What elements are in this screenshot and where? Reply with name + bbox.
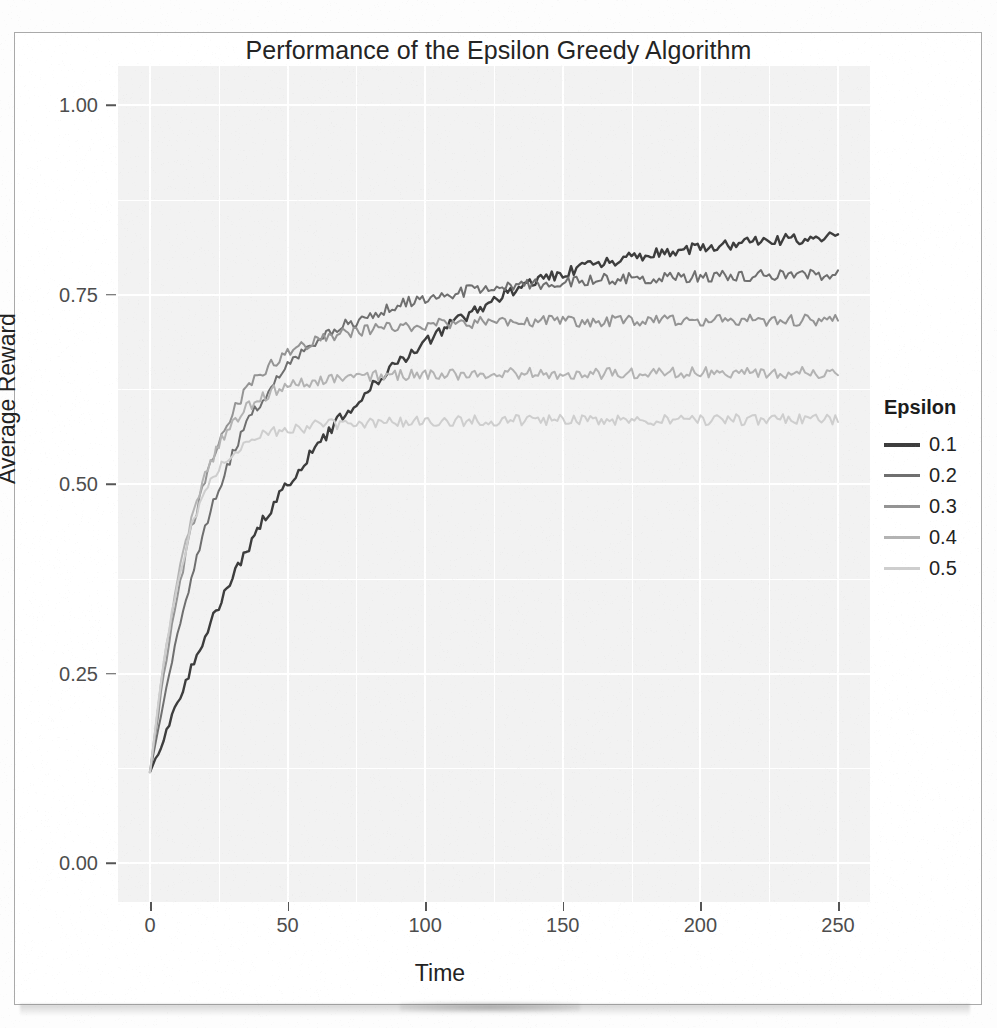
legend-item-0.4[interactable]: 0.4 [884,522,957,553]
series-lines [118,66,870,902]
x-tick-label: 50 [276,914,298,937]
legend-item-0.1[interactable]: 0.1 [884,429,957,460]
y-tick-label: 1.00 [42,94,98,117]
legend-item-label: 0.5 [929,557,957,580]
legend-item-0.2[interactable]: 0.2 [884,460,957,491]
x-axis: 050100150200250 [118,902,870,942]
y-tick-label: 0.50 [42,473,98,496]
x-tick-mark [150,902,152,911]
series-line-0.1 [150,232,838,772]
legend-item-label: 0.4 [929,526,957,549]
y-axis: 0.000.250.500.751.00 [40,66,118,902]
legend-rows: 0.10.20.30.40.5 [884,429,957,584]
legend-line-swatch [884,536,920,539]
legend-title: Epsilon [884,396,957,419]
y-tick-mark [106,862,116,864]
legend-item-0.3[interactable]: 0.3 [884,491,957,522]
legend: Epsilon 0.10.20.30.40.5 [884,396,957,584]
legend-item-label: 0.3 [929,495,957,518]
y-tick-mark [106,483,116,485]
legend-item-0.5[interactable]: 0.5 [884,553,957,584]
plot-panel [118,66,870,902]
x-tick-label: 0 [144,914,155,937]
x-tick-mark [838,902,840,911]
legend-item-label: 0.2 [929,464,957,487]
x-tick-mark [563,902,565,911]
y-axis-label: Average Reward [0,313,21,484]
y-tick-mark [106,294,116,296]
series-line-0.5 [150,414,838,772]
x-tick-mark [288,902,290,911]
x-tick-mark [425,902,427,911]
series-line-0.4 [150,367,838,772]
legend-line-swatch [884,443,920,447]
series-line-0.2 [150,270,838,772]
x-axis-label: Time [0,960,880,987]
y-tick-label: 0.25 [42,662,98,685]
legend-item-label: 0.1 [929,433,957,456]
legend-line-swatch [884,505,920,508]
x-tick-label: 100 [409,914,442,937]
legend-line-swatch [884,474,920,477]
scanned-figure-page: Performance of the Epsilon Greedy Algori… [0,0,997,1028]
scan-shadow-center [400,1002,580,1012]
series-line-0.3 [150,315,838,772]
y-tick-label: 0.75 [42,283,98,306]
x-tick-label: 150 [546,914,579,937]
y-tick-label: 0.00 [42,852,98,875]
legend-line-swatch [884,567,920,570]
x-tick-label: 250 [821,914,854,937]
x-tick-mark [700,902,702,911]
chart-title: Performance of the Epsilon Greedy Algori… [0,36,997,65]
x-tick-label: 200 [684,914,717,937]
y-tick-mark [106,104,116,106]
y-tick-mark [106,673,116,675]
